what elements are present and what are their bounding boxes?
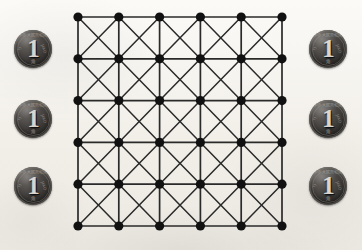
coin-denomination: 1 — [309, 106, 347, 131]
coin-legend-bottom: 角 — [309, 60, 347, 65]
lattice-node — [73, 12, 82, 21]
coin-left-1: 中华人民共和国YIJIAO1角 — [14, 30, 52, 68]
coin-face: 中华人民共和国YIJIAO1角 — [309, 30, 347, 68]
lattice-node — [196, 12, 205, 21]
lattice-node — [277, 96, 286, 105]
coin-right-3: 中华人民共和国YIJIAO1角 — [309, 167, 347, 205]
lattice-node — [114, 96, 123, 105]
lattice-node — [277, 180, 286, 189]
coin-right-1: 中华人民共和国YIJIAO1角 — [309, 30, 347, 68]
coin-face: 中华人民共和国YIJIAO1角 — [14, 167, 52, 205]
lattice-node — [73, 54, 82, 63]
lattice-node — [196, 96, 205, 105]
lattice-node — [237, 12, 246, 21]
lattice-node — [277, 221, 286, 230]
coin-face: 中华人民共和国YIJIAO1角 — [14, 100, 52, 138]
lattice-node — [237, 54, 246, 63]
lattice-node — [277, 12, 286, 21]
scene-canvas: 中华人民共和国YIJIAO1角中华人民共和国YIJIAO1角中华人民共和国YIJ… — [0, 0, 362, 250]
coin-legend-bottom: 角 — [309, 197, 347, 202]
lattice-node — [155, 12, 164, 21]
lattice-node — [114, 180, 123, 189]
lattice-node — [155, 180, 164, 189]
coin-right-2: 中华人民共和国YIJIAO1角 — [309, 100, 347, 138]
lattice-node — [277, 54, 286, 63]
lattice-node — [237, 138, 246, 147]
coin-legend-bottom: 角 — [14, 197, 52, 202]
coin-face: 中华人民共和国YIJIAO1角 — [309, 167, 347, 205]
lattice-node — [114, 221, 123, 230]
lattice-node — [237, 96, 246, 105]
lattice-node — [237, 221, 246, 230]
lattice-node — [277, 138, 286, 147]
coin-denomination: 1 — [14, 173, 52, 198]
coin-legend-bottom: 角 — [14, 60, 52, 65]
lattice-node — [73, 221, 82, 230]
coin-face: 中华人民共和国YIJIAO1角 — [309, 100, 347, 138]
lattice-node — [155, 54, 164, 63]
lattice-node — [155, 96, 164, 105]
coin-legend-bottom: 角 — [309, 130, 347, 135]
lattice-node — [196, 54, 205, 63]
lattice-node — [114, 138, 123, 147]
lattice-node — [196, 221, 205, 230]
lattice-node — [73, 96, 82, 105]
coin-denomination: 1 — [14, 36, 52, 61]
coin-left-3: 中华人民共和国YIJIAO1角 — [14, 167, 52, 205]
coin-legend-bottom: 角 — [14, 130, 52, 135]
lattice-diagonal-edges — [78, 17, 282, 226]
lattice-node — [155, 221, 164, 230]
coin-denomination: 1 — [14, 106, 52, 131]
lattice-node — [237, 180, 246, 189]
lattice-node — [114, 12, 123, 21]
coin-denomination: 1 — [309, 36, 347, 61]
coin-denomination: 1 — [309, 173, 347, 198]
lattice-node — [196, 180, 205, 189]
lattice-node — [73, 138, 82, 147]
coin-left-2: 中华人民共和国YIJIAO1角 — [14, 100, 52, 138]
lattice-node — [114, 54, 123, 63]
lattice-node — [155, 138, 164, 147]
lattice-diagram — [0, 0, 362, 250]
lattice-node — [196, 138, 205, 147]
lattice-node — [73, 180, 82, 189]
coin-face: 中华人民共和国YIJIAO1角 — [14, 30, 52, 68]
